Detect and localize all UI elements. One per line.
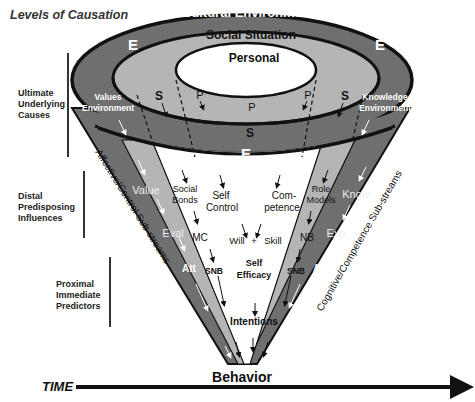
self-efficacy-line2: Efficacy [237,270,272,280]
values-environment-line2: Environment [82,103,134,113]
intentions-node: Intentions [230,316,278,327]
snb-node-left: SNB [205,266,223,276]
plus-sign: + [251,235,257,246]
e-label-bottom: E [241,145,251,162]
value-node: Value [132,184,159,196]
social-situation-label: Social Situation [206,28,296,42]
role-models-line1: Role [312,184,331,194]
cultural-environment-label: Cultural Environment [182,5,315,20]
self-efficacy-line1: Self [246,258,264,268]
att-node-right: Att [313,263,328,274]
p-label-left: P [196,89,203,101]
att-node-left: Att [182,263,197,274]
mc-node: MC [192,232,208,243]
snb-node-right: SNB [287,266,305,276]
self-control-line2: Control [206,202,238,213]
will-node: Will [229,235,244,246]
knowledge-environment-line1: Knowledge [362,92,408,102]
values-environment-line1: Values [95,92,122,102]
p-label-center: P [248,101,255,113]
e-label-right: E [375,36,385,53]
p-label-right: P [304,89,311,101]
s-label-right: S [341,89,349,103]
role-models-line2: Models [306,195,336,205]
personal-label: Personal [229,51,280,65]
competence-line2: petence [264,202,300,213]
funnel-svg: Cultural Environment Social Situation Pe… [0,0,475,402]
social-bonds-line2: Bonds [172,195,198,205]
theory-of-triadic-influence-diagram: Levels of Causation Ultimate Underlying … [0,0,475,402]
behavior-label: Behavior [212,369,272,385]
nb-node: NB [300,232,314,243]
skill-node: Skill [264,235,281,246]
e-label-left: E [128,36,138,53]
self-control-line1: Self [212,190,229,201]
social-bonds-line1: Social [173,184,198,194]
s-label-left: S [155,89,163,103]
know-node: Know [342,188,370,200]
s-label-bottom: S [246,126,254,140]
eval-node: Eval [162,227,183,239]
time-label: TIME [42,379,73,394]
knowledge-environment-line2: Environment [359,103,411,113]
competence-line1: Com- [272,190,296,201]
exp-node: Exp [327,227,346,239]
